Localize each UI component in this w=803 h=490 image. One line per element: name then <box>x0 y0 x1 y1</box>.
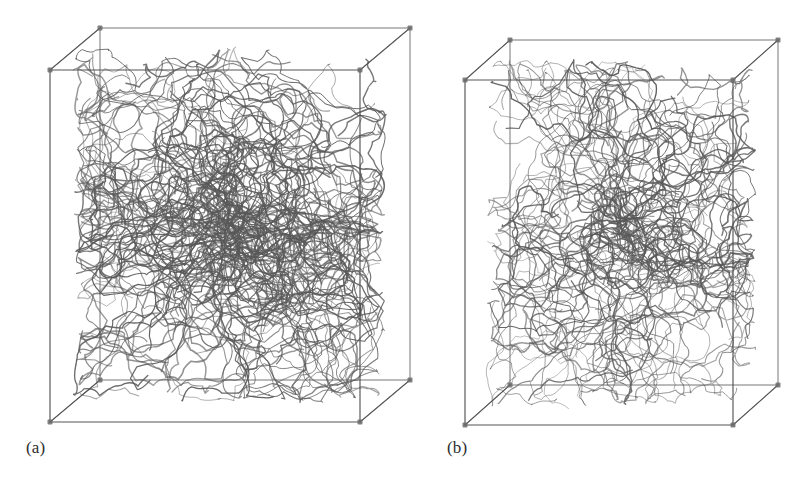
panel-b <box>420 0 803 442</box>
simulation-box-b <box>420 0 803 442</box>
simulation-box-a <box>0 0 420 442</box>
panel-a <box>0 0 420 442</box>
panel-b-caption: (b) <box>447 438 467 458</box>
figure-container: (a) (b) <box>0 0 803 490</box>
panel-a-caption: (a) <box>26 438 45 458</box>
